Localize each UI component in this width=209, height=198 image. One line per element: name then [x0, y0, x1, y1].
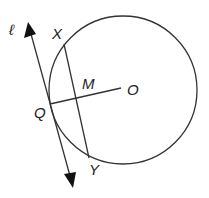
circle-o [49, 16, 197, 164]
diagram-canvas [0, 0, 209, 198]
arrow-down-icon [64, 172, 76, 188]
label-q: Q [34, 105, 46, 120]
label-line-l: ℓ [9, 22, 14, 37]
label-o: O [127, 82, 139, 97]
arrow-up-icon [24, 22, 36, 38]
geometry-diagram: ℓ X M O Q Y [0, 0, 209, 198]
label-y: Y [89, 162, 99, 177]
label-x: X [52, 26, 62, 41]
chord-xy [64, 44, 89, 158]
label-m: M [82, 76, 95, 91]
